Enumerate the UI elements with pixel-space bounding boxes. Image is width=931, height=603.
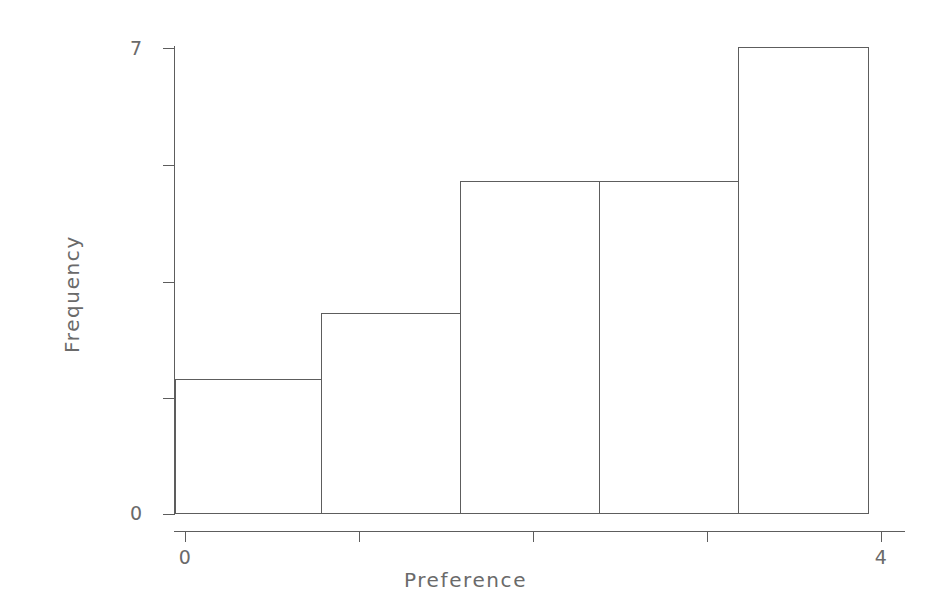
- y-axis-tick-0: [163, 514, 174, 515]
- y-axis-title: Frequency: [60, 214, 84, 374]
- x-axis-tick-4: [881, 531, 882, 542]
- histogram-bar[interactable]: [738, 47, 869, 514]
- x-axis-title: Preference: [0, 568, 931, 592]
- histogram-bar[interactable]: [599, 181, 739, 514]
- histogram-bar[interactable]: [460, 181, 600, 514]
- y-axis-tick-label-7: 7: [130, 37, 143, 59]
- y-axis-tick-5-25: [163, 165, 174, 166]
- x-axis-tick-2: [533, 531, 534, 542]
- y-axis-tick-7: [163, 48, 174, 49]
- histogram-bar[interactable]: [321, 313, 461, 514]
- x-axis-tick-3: [707, 531, 708, 542]
- x-axis-tick-label-4: 4: [875, 546, 888, 568]
- y-axis-tick-1-75: [163, 398, 174, 399]
- x-axis-tick-label-0: 0: [179, 546, 192, 568]
- x-axis-tick-1: [359, 531, 360, 542]
- histogram-figure: 7 0 0 4 Frequency Preference: [0, 0, 931, 603]
- x-axis-line: [174, 531, 905, 532]
- x-axis-tick-0: [185, 531, 186, 542]
- y-axis-tick-label-0: 0: [130, 502, 143, 524]
- histogram-bar[interactable]: [175, 379, 322, 514]
- y-axis-tick-3-5: [163, 282, 174, 283]
